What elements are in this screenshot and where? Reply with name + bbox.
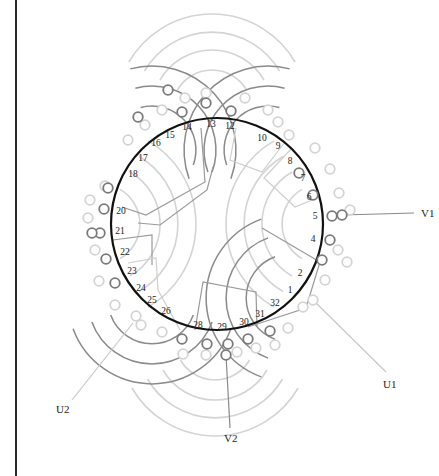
slot-label: 25 bbox=[147, 295, 157, 305]
slot-label: 20 bbox=[116, 206, 126, 216]
terminal-node-dark bbox=[177, 107, 187, 117]
terminal-node-dark bbox=[163, 85, 173, 95]
terminal-node-light bbox=[273, 117, 283, 127]
terminal-label-u2: U2 bbox=[56, 403, 69, 415]
terminal-node-light bbox=[94, 276, 104, 286]
phase-light-bottom-coil-2 bbox=[163, 370, 267, 400]
terminal-node-light bbox=[310, 143, 320, 153]
phase-light-right-coil-1 bbox=[282, 189, 302, 258]
phase-light-top-coil-4 bbox=[129, 14, 295, 62]
slot-label: 15 bbox=[165, 130, 175, 140]
terminal-node-light bbox=[157, 105, 167, 115]
winding-diagram: V1U1U2V2 1245678910121314151617182021222… bbox=[0, 0, 439, 476]
terminal-node-dark bbox=[87, 228, 97, 238]
terminal-node-light bbox=[284, 130, 294, 140]
terminal-node-light bbox=[123, 135, 133, 145]
terminal-node-dark bbox=[133, 112, 143, 122]
terminal-node-light bbox=[201, 88, 211, 98]
slot-label: 18 bbox=[128, 169, 138, 179]
slot-label: 7 bbox=[301, 173, 306, 183]
terminal-node-light bbox=[140, 120, 150, 130]
terminal-node-dark bbox=[243, 334, 253, 344]
lead-line-u1 bbox=[313, 300, 386, 372]
terminal-node-dark bbox=[110, 278, 120, 288]
slot-label: 30 bbox=[239, 317, 249, 327]
terminal-node-dark bbox=[221, 350, 231, 360]
slot-label: 4 bbox=[311, 234, 316, 244]
phase-light-top-coil-2 bbox=[160, 50, 264, 80]
terminal-node-light bbox=[298, 302, 308, 312]
terminal-node-dark bbox=[265, 326, 275, 336]
slot-label: 9 bbox=[276, 141, 281, 151]
slot-label: 12 bbox=[225, 121, 235, 131]
phase-light-top-coil-3 bbox=[145, 32, 280, 71]
terminal-node-light bbox=[178, 349, 188, 359]
terminal-node-light bbox=[157, 327, 167, 337]
terminal-node-dark bbox=[202, 339, 212, 349]
terminal-node-dark bbox=[325, 235, 335, 245]
slot-label: 22 bbox=[120, 247, 130, 257]
terminal-label-u1: U1 bbox=[383, 378, 396, 390]
slot-label: 21 bbox=[115, 226, 125, 236]
terminal-node-light bbox=[308, 295, 318, 305]
lead-line-u2 bbox=[72, 323, 133, 400]
light-phase-coils bbox=[120, 14, 302, 436]
terminal-node-light bbox=[240, 93, 250, 103]
terminal-node-dark bbox=[337, 210, 347, 220]
terminal-node-light bbox=[333, 245, 343, 255]
terminal-node-light bbox=[320, 275, 330, 285]
terminal-node-dark bbox=[317, 255, 327, 265]
terminal-node-light bbox=[201, 350, 211, 360]
slot-label: 28 bbox=[193, 320, 203, 330]
terminal-node-light bbox=[283, 323, 293, 333]
terminal-node-light bbox=[342, 257, 352, 267]
phase-light-bottom-coil-4 bbox=[132, 388, 298, 436]
slot-label: 14 bbox=[182, 122, 192, 132]
slot-label: 24 bbox=[136, 283, 146, 293]
slot-label: 17 bbox=[138, 153, 148, 163]
slot-label: 2 bbox=[298, 268, 303, 278]
terminal-node-light bbox=[83, 213, 93, 223]
terminal-node-dark bbox=[201, 98, 211, 108]
terminal-node-light bbox=[270, 340, 280, 350]
slot-label: 31 bbox=[255, 309, 265, 319]
terminal-node-light bbox=[110, 300, 120, 310]
terminal-node-light bbox=[232, 347, 242, 357]
terminal-node-light bbox=[325, 164, 335, 174]
terminal-node-light bbox=[90, 245, 100, 255]
slot-label: 13 bbox=[206, 119, 216, 129]
phase-light-bottom-coil-3 bbox=[148, 379, 283, 418]
terminal-node-light bbox=[334, 188, 344, 198]
terminal-node-light bbox=[85, 195, 95, 205]
left-frame-border bbox=[15, 0, 17, 476]
terminal-nodes bbox=[83, 85, 355, 360]
slot-label: 8 bbox=[288, 156, 293, 166]
phase-boundary-line bbox=[138, 167, 213, 225]
phase-boundary-line bbox=[113, 235, 152, 265]
terminal-node-dark bbox=[99, 204, 109, 214]
slot-label: 6 bbox=[307, 192, 312, 202]
terminal-node-dark bbox=[101, 254, 111, 264]
slot-label: 5 bbox=[313, 211, 318, 221]
terminal-node-light bbox=[251, 343, 261, 353]
terminal-label-v1: V1 bbox=[421, 207, 434, 219]
terminal-label-v2: V2 bbox=[224, 432, 237, 444]
slot-label: 32 bbox=[270, 298, 280, 308]
terminal-node-light bbox=[136, 320, 146, 330]
terminal-node-dark bbox=[226, 106, 236, 116]
slot-label: 1 bbox=[288, 285, 293, 295]
slot-label: 23 bbox=[127, 266, 137, 276]
terminal-node-light bbox=[263, 105, 273, 115]
terminal-node-light bbox=[180, 93, 190, 103]
phase-light-bottom-coil-1 bbox=[180, 360, 249, 380]
terminal-node-dark bbox=[327, 211, 337, 221]
slot-label: 16 bbox=[151, 138, 161, 148]
terminal-node-dark bbox=[223, 339, 233, 349]
terminal-node-light bbox=[131, 311, 141, 321]
slot-label: 29 bbox=[217, 322, 227, 332]
slot-label: 26 bbox=[161, 306, 171, 316]
diagram-canvas: V1U1U2V2 1245678910121314151617182021222… bbox=[0, 0, 439, 476]
terminal-node-dark bbox=[177, 334, 187, 344]
slot-label: 10 bbox=[257, 133, 267, 143]
terminal-node-dark bbox=[103, 183, 113, 193]
